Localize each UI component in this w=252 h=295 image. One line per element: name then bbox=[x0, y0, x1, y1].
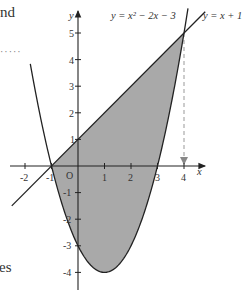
y-tick-label: -4 bbox=[63, 267, 71, 278]
x-axis-label: x bbox=[196, 166, 202, 177]
y-tick-label: 1 bbox=[70, 134, 75, 145]
y-tick-label: 5 bbox=[69, 28, 74, 39]
x-tick-label: 3 bbox=[155, 172, 160, 183]
graph: -2 -1 1 2 3 4 5 4 3 2 1 -1 -2 -3 -4 O x … bbox=[0, 0, 252, 295]
origin-label: O bbox=[66, 170, 73, 181]
x-tick-label: -2 bbox=[20, 172, 28, 183]
y-axis-label: y bbox=[68, 10, 74, 21]
y-tick-label: -1 bbox=[63, 187, 71, 198]
y-tick-label: -2 bbox=[63, 214, 71, 225]
x-tick-label: 1 bbox=[102, 172, 107, 183]
parabola-label: y = x² − 2x − 3 bbox=[110, 10, 176, 21]
x-tick-label: 2 bbox=[128, 172, 133, 183]
line-label: y = x + 1 bbox=[202, 10, 242, 21]
y-tick-label: 4 bbox=[69, 55, 74, 66]
shaded-region bbox=[52, 33, 185, 272]
x-tick-labels: -2 -1 1 2 3 4 bbox=[20, 172, 186, 183]
x-tick-label: -1 bbox=[46, 172, 54, 183]
y-tick-label: 3 bbox=[69, 81, 74, 92]
x-tick-label: 4 bbox=[181, 172, 186, 183]
y-tick-label: -3 bbox=[63, 240, 71, 251]
y-tick-label: 2 bbox=[69, 108, 74, 119]
